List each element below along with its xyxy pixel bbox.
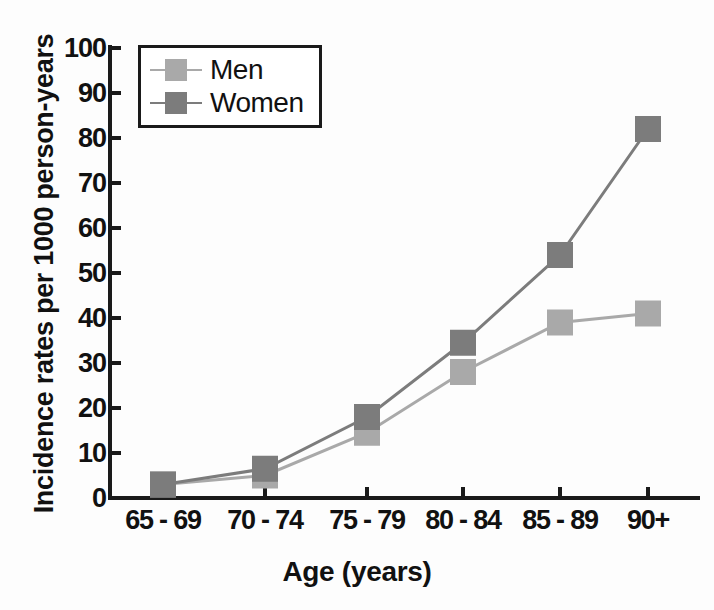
marker-women-2 <box>354 404 380 430</box>
series-line-men <box>163 314 648 485</box>
legend-swatch-women <box>165 92 187 114</box>
x-axis-title: Age (years) <box>0 556 714 588</box>
legend-marker-women <box>150 92 202 114</box>
legend-item-women: Women <box>150 86 303 119</box>
marker-men-5 <box>635 301 661 327</box>
legend-marker-men <box>150 59 202 81</box>
legend-label-men: Men <box>210 56 263 84</box>
legend-label-women: Women <box>210 89 303 117</box>
marker-women-3 <box>450 330 476 356</box>
marker-men-4 <box>547 310 573 336</box>
marker-women-1 <box>252 456 278 482</box>
legend-swatch-men <box>165 59 187 81</box>
series-line-women <box>163 129 648 485</box>
marker-women-5 <box>635 116 661 142</box>
plot-area <box>0 0 714 610</box>
chart-figure: Incidence rates per 1000 person-years 01… <box>0 0 714 610</box>
marker-men-3 <box>450 359 476 385</box>
legend-item-men: Men <box>150 53 303 86</box>
marker-women-4 <box>547 242 573 268</box>
legend: Men Women <box>138 45 322 128</box>
marker-women-0 <box>150 472 176 498</box>
